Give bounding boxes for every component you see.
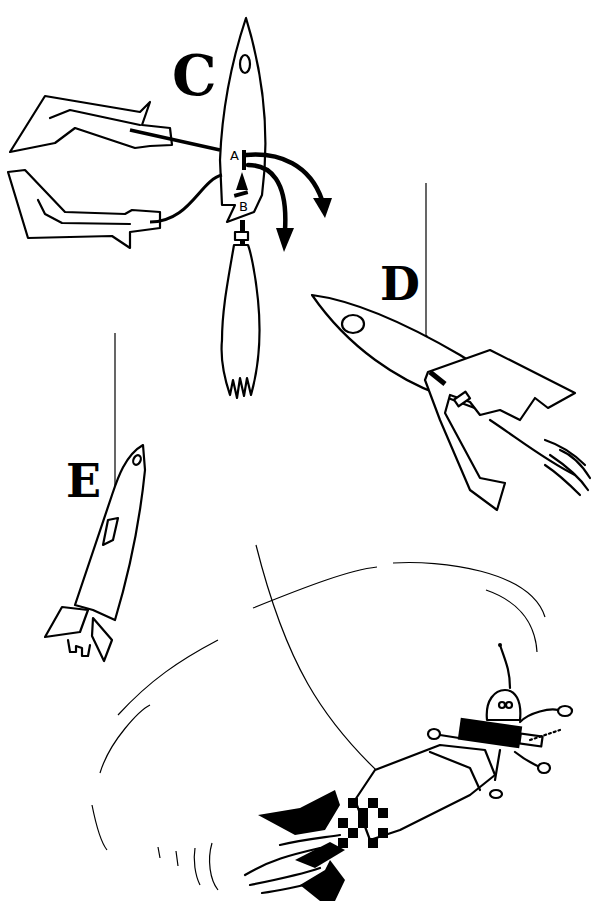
fin-f-1 [258, 790, 340, 835]
label-e: E [66, 454, 101, 508]
rocket-c-flame [222, 245, 260, 398]
astronaut-dome [487, 690, 521, 720]
rocket-f-body [355, 745, 495, 840]
astronaut-belt [458, 718, 522, 748]
arrow-head-1-icon [313, 198, 332, 218]
panel-e: E [45, 333, 145, 661]
panel-c: C A B [8, 18, 332, 398]
label-d: D [380, 257, 420, 311]
rocket-c-window [240, 55, 250, 73]
panel-d: D [312, 183, 590, 510]
rocket-c-body [220, 18, 265, 222]
antenna [500, 645, 510, 688]
glider-d [425, 350, 575, 510]
glider-c-upper [10, 96, 172, 152]
label-c: C [172, 42, 217, 108]
rocket-d-window [342, 315, 364, 333]
label-a: A [230, 148, 239, 163]
panel-f [92, 545, 572, 901]
glider-c-lower [8, 170, 160, 248]
arrow-head-2-icon [276, 228, 294, 252]
illustration-canvas: C A B D [0, 0, 595, 901]
label-b: B [239, 199, 248, 214]
